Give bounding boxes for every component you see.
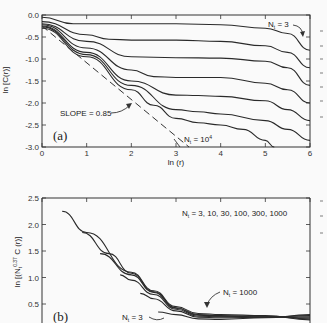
arrow-icon: [149, 317, 164, 320]
figure: 01234560.0-0.5-1.0-1.5-2.0-2.5-3.0 ln [C…: [0, 0, 327, 323]
arrow-icon: [174, 139, 180, 147]
panel-b-label: (b): [53, 309, 68, 323]
data-curve: [62, 211, 310, 320]
annotation-nt3-b: Nt = 3: [122, 313, 143, 323]
y-tick-label: -1.5: [25, 77, 39, 86]
y-tick-label: 0.0: [28, 11, 40, 20]
x-tick-label: 2: [129, 149, 134, 158]
x-tick-label: 0: [40, 149, 45, 158]
x-tick-label: 5: [263, 149, 268, 158]
x-tick-label: 6: [308, 149, 313, 158]
data-curve: [100, 254, 310, 318]
y-tick-label: 0.5: [28, 300, 40, 309]
annotation-nt3: Nt = 3: [268, 20, 289, 30]
panel-b-ylabel: ln [(Nt0.37 C (r)]: [12, 237, 23, 288]
x-tick-label: 3: [174, 149, 179, 158]
y-tick-label: -3.0: [25, 143, 39, 152]
data-curve: [82, 232, 310, 318]
annotation-slope: SLOPE = 0.85: [60, 109, 112, 118]
data-curve: [42, 25, 310, 103]
annotation-nt1000: Nt = 1000: [223, 288, 258, 298]
panel-a-ylabel: ln [C(r)]: [1, 67, 10, 94]
y-tick-label: 2.0: [28, 221, 40, 230]
y-tick-label: -2.5: [25, 121, 39, 130]
panel-a-label: (a): [53, 128, 67, 143]
y-tick-label: 1.0: [28, 274, 40, 283]
y-tick-label: -0.5: [25, 33, 39, 42]
panel-a: 01234560.0-0.5-1.0-1.5-2.0-2.5-3.0 ln [C…: [1, 11, 313, 167]
y-tick-label: -2.0: [25, 99, 39, 108]
y-tick-label: 1.5: [28, 247, 40, 256]
arrow-icon: [111, 105, 130, 113]
arrowhead-icon: [204, 302, 210, 308]
y-tick-label: 2.5: [28, 194, 40, 203]
panel-b: 2.52.01.51.00.5 ln [(Nt0.37 C (r)] (b) N…: [12, 194, 310, 323]
panel-b-legend-text: Nt = 3, 10, 30, 100, 300, 1000: [182, 209, 288, 219]
panel-b-curves: [62, 211, 310, 320]
panel-a-ticks: 01234560.0-0.5-1.0-1.5-2.0-2.5-3.0: [25, 11, 313, 158]
arrowhead-icon: [300, 31, 305, 37]
panel-a-xlabel: ln (r): [168, 158, 185, 167]
x-tick-label: 4: [218, 149, 223, 158]
annotation-nt10e4: Nt = 104: [184, 134, 212, 145]
bleed-through-marks: [320, 30, 323, 234]
panel-a-curves: [42, 17, 310, 147]
x-tick-label: 1: [84, 149, 89, 158]
data-curve: [120, 275, 310, 317]
y-tick-label: -1.0: [25, 55, 39, 64]
